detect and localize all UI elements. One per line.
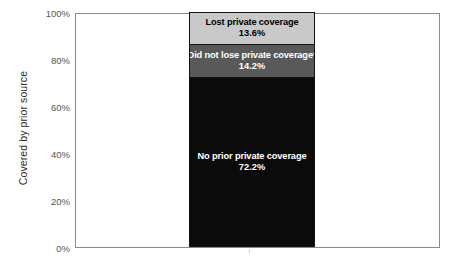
y-tick-label-60: 60% — [10, 102, 70, 113]
y-tick-label-80: 80% — [10, 55, 70, 66]
bar-segment-lost-private-coverage[interactable]: Lost private coverage 13.6% — [189, 12, 315, 44]
bar-segment-no-prior-private-coverage[interactable]: No prior private coverage 72.2% — [189, 77, 315, 247]
bar-segment-value: 72.2% — [239, 162, 265, 174]
bar-segment-value: 13.6% — [239, 28, 265, 40]
y-axis-title: Covered by prior source — [17, 8, 29, 248]
bar-segment-value: 14.2% — [239, 61, 265, 73]
stacked-bar: Lost private coverage 13.6% Did not lose… — [189, 12, 315, 247]
y-tick-label-20: 20% — [10, 196, 70, 207]
y-tick-label-40: 40% — [10, 149, 70, 160]
plot-area: Lost private coverage 13.6% Did not lose… — [75, 13, 440, 248]
y-tick-label-0: 0% — [10, 243, 70, 254]
y-tick-label-100: 100% — [10, 8, 70, 19]
bar-segment-label: Did not lose private coverage* — [189, 50, 315, 62]
x-axis-tick — [249, 249, 250, 253]
bar-segment-did-not-lose-private-coverage[interactable]: Did not lose private coverage* 14.2% — [189, 44, 315, 77]
stacked-bar-chart: Covered by prior source 100% 80% 60% 40%… — [0, 0, 452, 274]
bar-segment-label: No prior private coverage — [198, 151, 307, 163]
bar-segment-label: Lost private coverage — [206, 17, 299, 29]
